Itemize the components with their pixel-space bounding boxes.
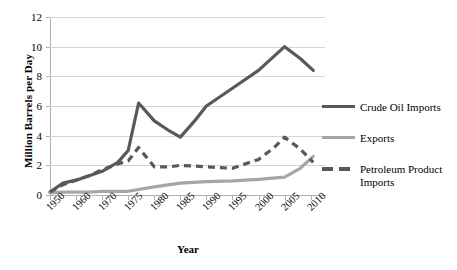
y-axis-tick-labels: 024681012 [0, 0, 48, 270]
legend-label: Exports [360, 131, 394, 145]
legend-label: Petroleum Product Imports [360, 162, 457, 188]
y-axis-tickmark [46, 47, 50, 48]
series-lines [50, 17, 325, 195]
y-axis-tickmark [46, 17, 50, 18]
y-axis-tick-label: 6 [37, 101, 43, 112]
legend-item[interactable]: Crude Oil Imports [322, 100, 457, 114]
legend-label: Crude Oil Imports [360, 100, 441, 114]
y-axis-tick-label: 10 [31, 41, 42, 52]
y-axis-tick-label: 2 [37, 160, 43, 171]
y-axis-tickmark [46, 195, 50, 196]
y-axis-tick-label: 8 [37, 71, 43, 82]
x-axis-title: Year [0, 243, 376, 255]
y-axis-tick-label: 0 [37, 190, 43, 201]
legend-swatch-solid-icon [322, 100, 355, 114]
series-line-crude-oil-imports [50, 47, 313, 192]
y-axis-tickmark [46, 165, 50, 166]
chart-legend: Crude Oil ImportsExportsPetroleum Produc… [322, 100, 457, 205]
y-axis-tick-label: 4 [37, 130, 43, 141]
legend-item[interactable]: Exports [322, 131, 457, 145]
chart-container: Million Barrels per Day 024681012 195019… [0, 0, 457, 270]
legend-swatch-solid-icon [322, 131, 355, 145]
legend-swatch-dashed-icon [322, 162, 355, 176]
legend-item[interactable]: Petroleum Product Imports [322, 162, 457, 188]
y-axis-tickmark [46, 136, 50, 137]
plot-area [50, 17, 325, 195]
y-axis-tickmark [46, 106, 50, 107]
y-axis-tickmark [46, 76, 50, 77]
y-axis-tick-label: 12 [31, 12, 42, 23]
